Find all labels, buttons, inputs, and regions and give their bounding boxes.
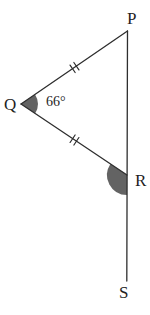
vertex-label-q: Q (4, 95, 16, 114)
geometry-figure: P Q R S 66° (0, 0, 150, 315)
angle-value-q: 66° (46, 94, 66, 109)
side-q-p (21, 31, 128, 104)
tick-mark (74, 62, 79, 69)
angle-sector-q (21, 94, 38, 113)
tick-mark (70, 135, 75, 142)
triangle-diagram-svg: P Q R S 66° (0, 0, 150, 315)
tick-mark (70, 65, 75, 72)
side-q-r (21, 104, 127, 175)
line-p-s (127, 31, 128, 281)
vertex-label-r: R (135, 171, 147, 190)
vertex-label-s: S (119, 283, 128, 302)
tick-mark (74, 138, 79, 145)
vertex-label-p: P (127, 9, 136, 28)
